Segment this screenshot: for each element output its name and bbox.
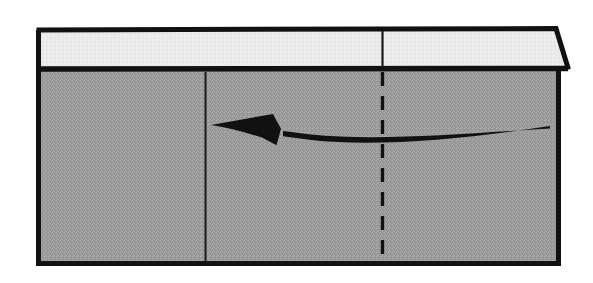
box-lid bbox=[38, 29, 568, 70]
box-body bbox=[39, 71, 558, 261]
box-diagram-svg bbox=[0, 0, 593, 283]
lid-body-divider bbox=[37, 69, 568, 70]
lid-fill bbox=[38, 29, 568, 70]
figure-root bbox=[0, 0, 593, 283]
body-fill bbox=[39, 71, 558, 261]
